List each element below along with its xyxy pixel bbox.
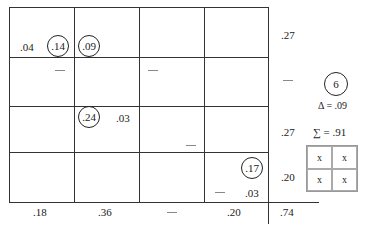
circled-number: 6 <box>324 72 348 96</box>
mini-grid: x x x x <box>306 145 358 192</box>
circled-cell-value: .24 <box>78 106 100 128</box>
grid-line <box>268 7 269 224</box>
dash-mark <box>283 80 293 81</box>
col-total: .18 <box>33 207 47 218</box>
grid-line <box>9 7 10 202</box>
delta-label: Δ = .09 <box>318 100 347 111</box>
circled-cell-value: .17 <box>241 157 263 179</box>
cell-value: .04 <box>20 42 34 53</box>
mini-cell: x <box>332 169 357 192</box>
grid-line <box>74 7 75 202</box>
mini-cell: x <box>307 146 332 169</box>
dash-mark <box>215 192 225 193</box>
sum-label: ∑ = .91 <box>313 127 346 138</box>
grid-line <box>204 7 205 202</box>
row-total: .20 <box>281 172 295 183</box>
grid-line <box>139 7 140 202</box>
row-total: .27 <box>281 30 295 41</box>
dash-mark <box>148 70 158 71</box>
row-total: .27 <box>281 127 295 138</box>
mini-cell: x <box>332 146 357 169</box>
circled-cell-value: .14 <box>47 35 69 57</box>
circled-cell-value: .09 <box>78 35 100 57</box>
cell-value: .03 <box>245 188 259 199</box>
cell-value: .03 <box>116 113 130 124</box>
dash-mark <box>167 212 177 213</box>
col-total: .20 <box>227 207 241 218</box>
mini-cell: x <box>307 169 332 192</box>
grid-line <box>9 202 319 203</box>
dash-mark <box>186 145 196 146</box>
grand-total: .74 <box>280 207 294 218</box>
col-total: .36 <box>98 207 112 218</box>
dash-mark <box>55 70 65 71</box>
